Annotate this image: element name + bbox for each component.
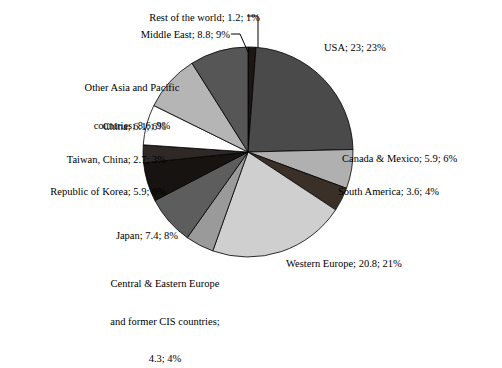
slice-label-middle-east: Middle East; 8.8; 9%: [88, 29, 230, 42]
slice-label-rest-of-the-world: Rest of the world; 1.2; 1%: [108, 12, 260, 25]
slice-label-south-america: South America; 3.6; 4%: [338, 186, 498, 199]
slice-label-central-eastern-europe-cis: Central & Eastern Europe and former CIS …: [80, 253, 250, 368]
slice-label-china: China; 6.1; 6%: [38, 121, 166, 134]
slice-label-usa: USA; 23; 23%: [324, 42, 484, 55]
pie-slice-usa[interactable]: [248, 47, 353, 152]
slice-label-other-asia-line-1: Other Asia and Pacific: [58, 82, 206, 95]
slice-label-taiwan-china: Taiwan, China; 2.7; 3%: [20, 154, 166, 167]
slice-label-cis-line-3: 4.3; 4%: [80, 353, 250, 366]
slice-label-other-asia-and-pacific: Other Asia and Pacific countries; 8.6; 9…: [58, 57, 206, 157]
slice-label-japan: Japan; 7.4; 8%: [60, 230, 178, 243]
slice-label-western-europe: Western Europe; 20.8; 21%: [286, 258, 476, 271]
slice-label-cis-line-1: Central & Eastern Europe: [80, 278, 250, 291]
slice-label-canada-mexico: Canada & Mexico; 5.9; 6%: [342, 153, 500, 166]
slice-label-republic-of-korea: Republic of Korea; 5.9; 6%: [8, 186, 166, 199]
slice-label-cis-line-2: and former CIS countries;: [80, 316, 250, 329]
